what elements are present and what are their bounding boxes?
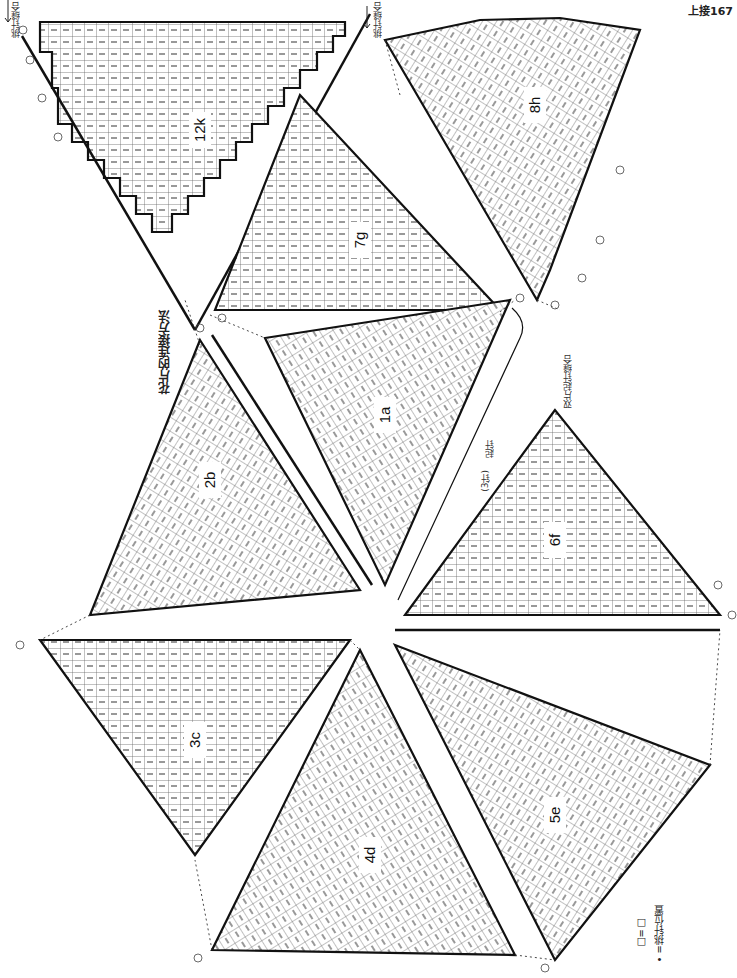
edge-stitch-label: 起针	[482, 440, 495, 458]
page-title: 花片的连接方法	[156, 310, 173, 394]
label-4d: 4d	[361, 847, 378, 864]
start-annotation-left: 挑针缝合	[8, 2, 21, 38]
join-annotation: 双片起针缝合	[560, 355, 573, 409]
legend-box-symbol: □=□	[636, 918, 647, 948]
label-2b: 2b	[201, 472, 218, 489]
start-annotation-mid: 挑针缝合	[370, 2, 383, 38]
label-8h: 8h	[526, 97, 543, 114]
diagram-canvas: 12k 7g 8h 1a 2b 6f 3c 4d 5e 上接167 挑针缝合 挑…	[0, 0, 737, 978]
label-3c: 3c	[186, 732, 203, 748]
edge-count-label: (3针)	[478, 470, 491, 492]
label-1a: 1a	[376, 406, 393, 423]
label-12k: 12k	[191, 117, 208, 142]
label-7g: 7g	[351, 232, 368, 249]
piece-layout: 12k 7g 8h 1a 2b 6f 3c 4d 5e	[0, 0, 737, 978]
page-reference: 上接167	[688, 2, 733, 18]
label-6f: 6f	[546, 533, 563, 546]
legend-dot-symbol: • =挑针位置	[652, 905, 667, 962]
label-5e: 5e	[546, 807, 563, 824]
